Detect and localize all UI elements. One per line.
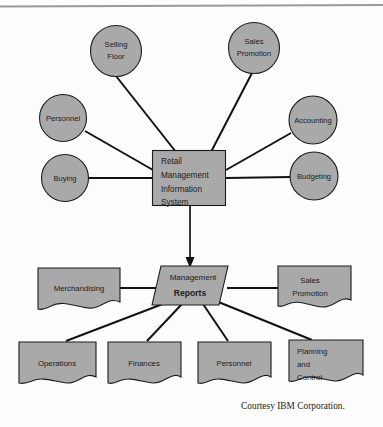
connector-personnel-out [203, 304, 228, 341]
connector-planning-and-control [216, 301, 312, 340]
connector-accounting [226, 133, 291, 170]
connector-budgeting [226, 177, 291, 178]
sales-promotion-line-1: Sales [245, 37, 264, 46]
merchandising-line-1: Merchandising [54, 284, 105, 293]
banner-sales-promotion-out [278, 266, 351, 307]
connector-finances [147, 304, 182, 341]
core-line-4: System [161, 198, 188, 207]
reports-line-bold: Reports [174, 288, 207, 298]
finances-line-1: Finances [128, 359, 160, 368]
core-line-2: Management [161, 171, 210, 180]
planning-line-1: Planning [297, 347, 327, 356]
circle-sales-promotion [229, 23, 280, 74]
diagram: Retail Management Information System Sel… [0, 0, 383, 427]
sales-promotion-out-line-2: Promotion [292, 289, 328, 298]
operations-line-1: Operations [38, 359, 76, 368]
reports-line-top: Management [170, 273, 217, 282]
figure-canvas: Retail Management Information System Sel… [0, 0, 383, 427]
accounting-line-1: Accounting [294, 116, 332, 125]
selling-floor-line-1: Selling [105, 40, 128, 49]
sales-promotion-line-2: Promotion [237, 49, 272, 58]
planning-line-3: Control [297, 373, 322, 382]
planning-line-2: and [297, 360, 310, 369]
budgeting-line-1: Budgeting [297, 172, 331, 181]
personnel-out-line-1: Personnel [216, 359, 251, 368]
connector-personnel [85, 131, 153, 170]
connector-sales-promotion [211, 73, 252, 152]
core-line-1: Retail [161, 157, 182, 166]
connector-selling-floor [116, 76, 176, 152]
top-rule [0, 5, 383, 7]
buying-line-1: Buying [53, 174, 76, 183]
flow-arrow [186, 205, 195, 268]
figure-caption: Courtesy IBM Corporation. [241, 401, 345, 411]
reports-parallelogram [152, 266, 228, 305]
core-line-3: Information [161, 185, 202, 194]
sales-promotion-out-line-1: Sales [300, 276, 320, 285]
selling-floor-line-2: Floor [107, 52, 125, 61]
personnel-line-1: Personnel [46, 114, 81, 123]
circle-selling-floor [91, 26, 142, 77]
